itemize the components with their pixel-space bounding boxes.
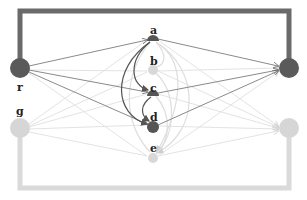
flow-diagram: r g a b c d e xyxy=(0,0,307,200)
node-r[interactable] xyxy=(10,58,30,78)
label-d: d xyxy=(150,111,158,124)
light-arcs xyxy=(129,42,189,153)
node-output-dark[interactable] xyxy=(279,58,299,78)
label-b: b xyxy=(150,55,158,68)
dark-arcs xyxy=(121,42,151,124)
label-e: e xyxy=(150,142,157,155)
label-a: a xyxy=(150,24,157,37)
label-r: r xyxy=(17,81,23,94)
label-g: g xyxy=(16,105,24,118)
label-c: c xyxy=(150,82,157,95)
node-g[interactable] xyxy=(10,118,30,138)
node-output-light[interactable] xyxy=(279,118,299,138)
